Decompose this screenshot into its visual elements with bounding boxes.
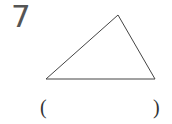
triangle-figure [0,0,172,124]
close-parenthesis: ) [153,96,160,118]
open-parenthesis: ( [40,96,47,118]
triangle-shape [46,15,155,79]
